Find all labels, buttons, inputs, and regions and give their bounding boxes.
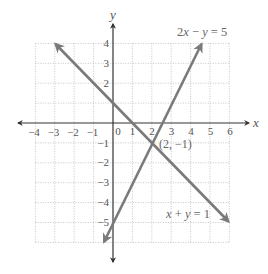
x-tick: 0	[115, 125, 121, 137]
x-tick: 3	[169, 125, 175, 137]
intersection-label: (2, −1)	[159, 137, 192, 151]
y-tick: −3	[97, 176, 109, 188]
y-tick: −1	[97, 137, 109, 149]
x-tick: 5	[208, 125, 214, 137]
y-tick: −4	[97, 196, 109, 208]
x-tick: −4	[28, 126, 40, 138]
x-tick: 6	[227, 125, 233, 137]
label-2x-minus-y-eq-5: 2x − y = 5	[177, 25, 227, 39]
label-x-plus-y-eq-1: x + y = 1	[165, 207, 210, 221]
x-axis-label: x	[252, 115, 259, 130]
y-tick: 4	[104, 37, 110, 49]
y-tick: 3	[104, 57, 110, 69]
y-axis-label: y	[108, 7, 116, 22]
x-tick: 2	[149, 125, 155, 137]
x-tick-labels: −4 −3 −2 −1 0 1 2 3 4 5 6	[28, 125, 233, 138]
x-tick: −3	[48, 126, 60, 138]
line-x-plus-y-eq-1	[56, 44, 229, 222]
coordinate-plane: x y −4 −3 −2 −1 0 1 2 3 4 5 6 4 3 2 −1 −…	[0, 0, 268, 274]
y-tick-labels: 4 3 2 −1 −2 −3 −4 −5	[97, 37, 109, 228]
x-tick: −2	[67, 126, 79, 138]
y-tick: −2	[97, 156, 109, 168]
y-tick: 2	[104, 77, 110, 89]
x-tick: 4	[188, 125, 194, 137]
y-tick: −5	[97, 216, 109, 228]
